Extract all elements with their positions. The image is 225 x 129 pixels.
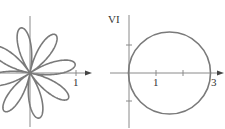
- panel-label: VI: [108, 14, 120, 25]
- rose-plot: [0, 16, 92, 127]
- circle-x-tick-label-3: 3: [211, 77, 217, 88]
- circle-x-tick-label-1: 1: [153, 77, 159, 88]
- x-axis-arrow-icon: [217, 71, 224, 76]
- circle-plot: [110, 15, 224, 128]
- rose-x-tick-label: 1: [73, 77, 79, 88]
- x-axis-arrow-icon: [85, 71, 92, 76]
